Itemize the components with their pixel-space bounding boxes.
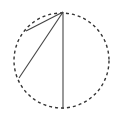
chord-top-to-upper-left	[26, 12, 63, 31]
dashed-circle	[14, 13, 109, 108]
circle-chords-diagram	[0, 0, 119, 125]
chord-top-to-lower-left	[19, 12, 63, 78]
